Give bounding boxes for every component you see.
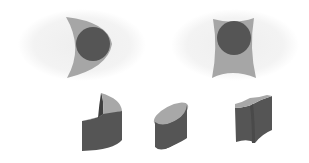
concave-prism [235, 95, 272, 143]
crescent-figure [18, 9, 146, 81]
dark-circle-right [217, 21, 251, 55]
dark-circle-left [76, 27, 110, 61]
curved-c-prism [82, 93, 122, 151]
concave-quad-figure [171, 9, 299, 81]
shapes-diagram [0, 0, 309, 163]
elliptical-cylinder [150, 98, 191, 149]
